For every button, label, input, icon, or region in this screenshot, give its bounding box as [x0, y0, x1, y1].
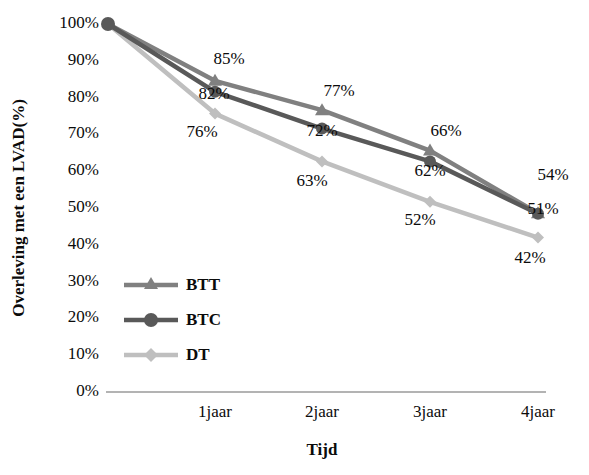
y-tick-label: 0% [76, 381, 99, 400]
y-tick-label: 10% [68, 344, 99, 363]
series-dt-marker [532, 232, 544, 244]
x-tick-label: 4jaar [521, 402, 555, 421]
data-label: 51% [527, 199, 558, 218]
y-tick-label: 90% [68, 50, 99, 69]
data-label: 77% [323, 81, 354, 100]
y-tick-label: 50% [68, 197, 99, 216]
series-btc-marker [101, 17, 115, 31]
legend-label-btc: BTC [186, 310, 221, 329]
survival-line-chart: 0% 10% 20% 30% 40% 50% 60% 70% 80% 90% 1… [0, 0, 589, 475]
y-axis-title: Overleving met een LVAD(%) [9, 99, 28, 317]
data-label: 72% [306, 121, 337, 140]
chart-canvas: 0% 10% 20% 30% 40% 50% 60% 70% 80% 90% 1… [0, 0, 589, 475]
y-tick-label: 100% [59, 13, 99, 32]
x-tick-label: 1jaar [198, 402, 232, 421]
chart-legend: BTT BTC DT [124, 275, 221, 364]
legend-item-btt[interactable]: BTT [124, 275, 221, 294]
data-label: 66% [430, 121, 461, 140]
data-label: 85% [213, 49, 244, 68]
legend-marker-diamond-icon [144, 348, 158, 362]
data-label: 52% [404, 210, 435, 229]
series-dt-marker [424, 196, 436, 208]
legend-label-btt: BTT [186, 275, 221, 294]
data-label: 42% [514, 248, 545, 267]
x-axis-title: Tijd [307, 440, 338, 459]
data-label: 54% [537, 165, 568, 184]
y-tick-label: 60% [68, 160, 99, 179]
y-tick-label: 40% [68, 234, 99, 253]
data-labels-btt: 85% 77% 66% 54% [213, 49, 568, 184]
legend-item-btc[interactable]: BTC [124, 310, 221, 329]
x-tick-label: 3jaar [413, 402, 447, 421]
y-tick-label: 20% [68, 307, 99, 326]
y-tick-label: 30% [68, 271, 99, 290]
data-label: 62% [414, 161, 445, 180]
data-label: 82% [198, 84, 229, 103]
legend-label-dt: DT [186, 345, 210, 364]
y-axis-tick-labels: 0% 10% 20% 30% 40% 50% 60% 70% 80% 90% 1… [59, 13, 99, 400]
y-tick-label: 70% [68, 123, 99, 142]
data-label: 76% [186, 122, 217, 141]
data-label: 63% [296, 171, 327, 190]
legend-marker-circle-icon [144, 313, 158, 327]
x-tick-label: 2jaar [305, 402, 339, 421]
x-axis-tick-labels: 1jaar 2jaar 3jaar 4jaar [198, 402, 555, 421]
y-tick-label: 80% [68, 87, 99, 106]
legend-item-dt[interactable]: DT [124, 345, 210, 364]
